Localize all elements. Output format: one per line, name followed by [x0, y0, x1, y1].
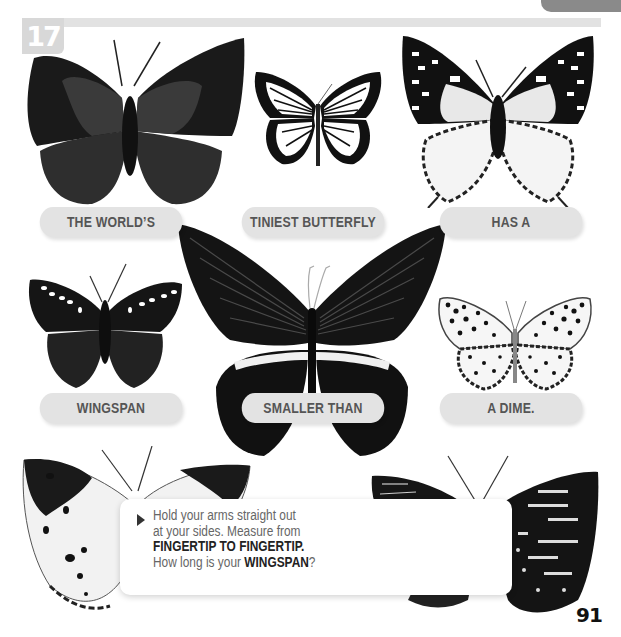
- butterfly-dark-spotted: [24, 262, 184, 392]
- butterfly-leopard-spotted: [434, 283, 596, 391]
- activity-callout: Hold your arms straight out at your side…: [120, 499, 512, 595]
- label-pill-tiniest-butterfly: TINIEST BUTTERFLY: [242, 207, 385, 237]
- callout-line-4-bold: WINGSPAN: [244, 554, 309, 570]
- callout-text: Hold your arms straight out at your side…: [153, 508, 374, 570]
- header-bar: [22, 18, 601, 27]
- label-pill-the-worlds: THE WORLD’S: [40, 207, 183, 237]
- label-pill-has-a: HAS A: [440, 207, 583, 237]
- butterfly-dark-leafwing: [22, 36, 248, 208]
- callout-line-3: FINGERTIP TO FINGERTIP.: [153, 538, 304, 554]
- page-number: 91: [576, 603, 602, 627]
- triangle-right-icon: [137, 514, 145, 526]
- fact-number-badge: 17: [22, 18, 64, 54]
- label-pill-a-dime: A DIME.: [440, 393, 583, 423]
- butterfly-white-veined: [252, 66, 384, 170]
- callout-line-4-prefix: How long is your: [153, 554, 244, 570]
- corner-tab: [541, 0, 621, 12]
- callout-line-4-suffix: ?: [309, 554, 316, 570]
- label-pill-smaller-than: SMALLER THAN: [242, 393, 385, 423]
- butterfly-spotted-charaxes: [398, 32, 598, 208]
- label-pill-wingspan: WINGSPAN: [40, 393, 183, 423]
- callout-line-2: at your sides. Measure from: [153, 524, 374, 540]
- callout-line-1: Hold your arms straight out: [153, 508, 374, 524]
